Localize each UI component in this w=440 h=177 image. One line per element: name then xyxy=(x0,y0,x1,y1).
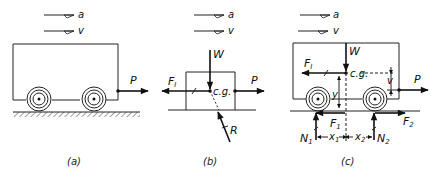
accel-label: a xyxy=(78,9,84,20)
wheel-icon xyxy=(27,87,51,111)
caption-a: (a) xyxy=(67,156,81,167)
f1-label: F1 xyxy=(330,117,341,131)
height-v-label: v xyxy=(387,75,394,86)
panel-c: a v W c.g. FI xyxy=(290,9,428,167)
height-y-label: y xyxy=(331,89,339,100)
acceleration-arrow-icon xyxy=(44,15,74,18)
pull-label: P xyxy=(251,74,258,87)
cg-label: c.g. xyxy=(213,86,231,97)
velocity-label: v xyxy=(78,25,85,36)
caption-c: (c) xyxy=(341,156,354,167)
velocity-arrow-icon xyxy=(44,31,74,34)
acceleration-arrow-icon xyxy=(300,15,330,18)
inertia-label: FI xyxy=(304,57,312,71)
x2-label: x2 xyxy=(354,131,366,144)
acceleration-arrow-icon xyxy=(194,15,224,18)
n2-label: N2 xyxy=(377,132,390,146)
wheel-icon xyxy=(306,87,330,111)
velocity-arrow-icon xyxy=(298,31,328,34)
reaction-label: R xyxy=(230,124,238,137)
panel-b: a v W c.g. FI P R (b) xyxy=(162,9,264,167)
inertia-label: FI xyxy=(168,75,176,89)
wheel-icon xyxy=(82,87,106,111)
n1-label: N1 xyxy=(300,132,313,146)
pull-label: P xyxy=(414,73,421,86)
wheel-icon xyxy=(363,87,387,111)
caption-b: (b) xyxy=(203,156,217,167)
trailer-body xyxy=(13,44,118,100)
accel-label: a xyxy=(333,9,339,20)
trailer-free-body-diagram: a v P (a) xyxy=(0,0,440,177)
accel-label: a xyxy=(228,9,234,20)
panel-a: a v P (a) xyxy=(13,9,148,167)
pull-label: P xyxy=(130,74,137,87)
f2-label: F2 xyxy=(403,115,414,129)
velocity-arrow-icon xyxy=(194,31,224,34)
weight-label: W xyxy=(213,48,225,61)
ground-hatch xyxy=(13,112,140,117)
velocity-label: v xyxy=(333,25,340,36)
x1-label: x1 xyxy=(328,131,339,144)
velocity-label: v xyxy=(228,25,235,36)
weight-label: W xyxy=(349,45,361,58)
